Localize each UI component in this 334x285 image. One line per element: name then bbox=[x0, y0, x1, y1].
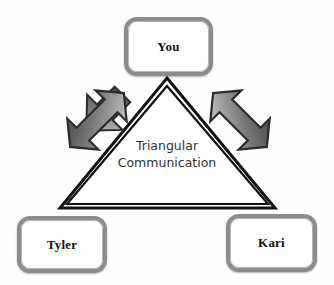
node-box-you[interactable]: You bbox=[124, 17, 213, 76]
node-box-kari-inner: Kari bbox=[230, 218, 313, 268]
node-label-tyler: Tyler bbox=[47, 237, 77, 253]
node-box-kari[interactable]: Kari bbox=[226, 214, 317, 272]
diagram-canvas: Triangular Communication You Tyler Kari bbox=[0, 0, 334, 285]
node-label-you: You bbox=[157, 39, 179, 55]
node-box-tyler[interactable]: Tyler bbox=[17, 216, 107, 273]
node-box-you-inner: You bbox=[128, 21, 209, 72]
center-caption: Triangular Communication bbox=[103, 138, 231, 172]
node-label-kari: Kari bbox=[258, 235, 285, 251]
caption-line-2: Communication bbox=[103, 155, 231, 172]
caption-line-1: Triangular bbox=[103, 138, 231, 155]
node-box-tyler-inner: Tyler bbox=[21, 220, 103, 269]
